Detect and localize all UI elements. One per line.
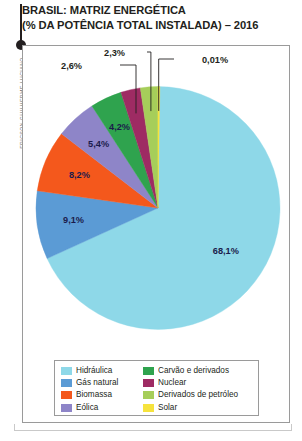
pie-slices [36, 87, 280, 330]
legend-item: Biomassa [61, 389, 143, 401]
legend-color-swatch [61, 404, 72, 412]
legend-color-swatch [61, 379, 72, 387]
legend-color-swatch [61, 367, 72, 375]
title-line-1: BRASIL: MATRIZ ENERGÉTICA [22, 3, 294, 18]
legend-label: Hidráulica [76, 367, 112, 375]
legend-label: Biomassa [76, 391, 112, 399]
pie-chart: 68,1%9,1%8,2%5,4%4,2%2,6%2,3%0,01% [22, 45, 290, 355]
pie-slice-value-label: 5,4% [88, 139, 109, 149]
legend-grid: HidráulicaCarvão e derivadosGás naturalN… [55, 365, 258, 414]
legend-label: Gás natural [76, 379, 118, 387]
pie-chart-svg: 68,1%9,1%8,2%5,4%4,2%2,6%2,3%0,01% [22, 45, 290, 355]
page-bottom-rule-left-tick [14, 424, 15, 431]
legend-item: Gás natural [61, 377, 143, 389]
legend-item: Nuclear [143, 377, 263, 389]
legend-item: Eólica [61, 402, 143, 414]
legend-label: Nuclear [158, 379, 186, 387]
legend-label: Solar [158, 404, 177, 412]
legend-label: Carvão e derivados [158, 367, 229, 375]
legend-color-swatch [61, 391, 72, 399]
legend-item: Carvão e derivados [143, 365, 263, 377]
pie-slice-value-label: 68,1% [213, 246, 239, 256]
legend-color-swatch [143, 404, 154, 412]
pie-slice-value-label: 4,2% [109, 122, 130, 132]
legend-color-swatch [143, 391, 154, 399]
legend-item: Derivados de petróleo [143, 389, 263, 401]
legend-label: Eólica [76, 404, 98, 412]
pie-slice-value-label: 0,01% [202, 55, 228, 65]
page-bottom-rule-right-tick [291, 424, 292, 431]
legend-color-swatch [143, 379, 154, 387]
legend-label: Derivados de petróleo [158, 391, 238, 399]
pie-slice-value-label: 2,6% [61, 61, 82, 71]
legend-item: Solar [143, 402, 263, 414]
page-title: BRASIL: MATRIZ ENERGÉTICA (% DA POTÊNCIA… [22, 3, 294, 32]
chart-legend: HidráulicaCarvão e derivadosGás naturalN… [54, 360, 259, 416]
legend-color-swatch [143, 367, 154, 375]
pie-slice-value-label: 9,1% [63, 215, 84, 225]
page-bottom-rule [14, 430, 292, 431]
pie-slice-value-label: 8,2% [69, 170, 90, 180]
pie-slice-value-label: 2,3% [104, 48, 125, 58]
title-line-2: (% DA POTÊNCIA TOTAL INSTALADA) – 2016 [22, 18, 294, 33]
legend-item: Hidráulica [61, 365, 143, 377]
